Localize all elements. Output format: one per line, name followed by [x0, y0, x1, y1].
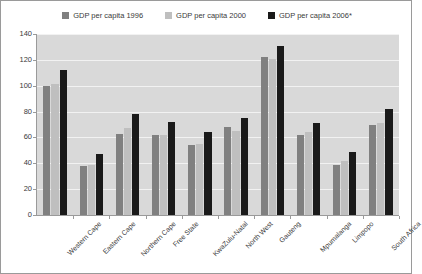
y-axis-tick-labels: 020406080100120140 — [1, 34, 32, 215]
bar-group — [224, 34, 248, 215]
x-axis-tick-label: Gauteng — [278, 220, 302, 244]
x-axis-tick-mark — [146, 216, 147, 219]
bar[interactable] — [333, 165, 340, 215]
bar-group — [369, 34, 393, 215]
x-axis-tick-mark — [363, 216, 364, 219]
x-axis-tick-mark — [290, 216, 291, 219]
bar[interactable] — [188, 145, 195, 215]
x-axis-tick-mark — [182, 216, 183, 219]
bar-group — [261, 34, 285, 215]
bar[interactable] — [377, 123, 384, 215]
bar[interactable] — [168, 122, 175, 215]
bar-group — [116, 34, 140, 215]
y-axis-tick-label: 0 — [28, 211, 32, 219]
bar[interactable] — [124, 128, 131, 215]
bar[interactable] — [152, 135, 159, 215]
bar[interactable] — [160, 135, 167, 215]
bar[interactable] — [313, 123, 320, 215]
chart-legend: GDP per capita 1996GDP per capita 2000GD… — [1, 12, 413, 20]
bar[interactable] — [241, 118, 248, 215]
bar[interactable] — [60, 70, 67, 215]
y-axis-tick-label: 80 — [24, 108, 32, 116]
bar-group — [152, 34, 176, 215]
bar-group — [333, 34, 357, 215]
y-axis-tick-label: 20 — [24, 185, 32, 193]
y-axis-tick-label: 60 — [24, 134, 32, 142]
x-axis-tick-mark — [254, 216, 255, 219]
bar-group — [80, 34, 104, 215]
legend-item[interactable]: GDP per capita 2000 — [165, 12, 246, 20]
bar[interactable] — [51, 84, 58, 215]
bar[interactable] — [369, 125, 376, 216]
y-axis-tick-label: 100 — [19, 82, 32, 90]
bar[interactable] — [224, 127, 231, 215]
bar[interactable] — [204, 132, 211, 215]
x-axis-tick-label: Northern Cape — [139, 220, 176, 257]
bar[interactable] — [80, 166, 87, 215]
x-axis-tick-label: Western Cape — [66, 220, 103, 257]
bar[interactable] — [132, 114, 139, 215]
x-axis-tick-label: South Africa — [390, 220, 422, 252]
legend-label: GDP per capita 2006* — [279, 12, 352, 20]
x-axis-tick-mark — [109, 216, 110, 219]
x-axis-tick-label: KwaZulu-Natal — [211, 220, 248, 257]
legend-item[interactable]: GDP per capita 1996 — [62, 12, 143, 20]
bar[interactable] — [297, 135, 304, 215]
bar[interactable] — [385, 109, 392, 215]
bar[interactable] — [43, 86, 50, 215]
bar[interactable] — [88, 165, 95, 215]
bar-group — [188, 34, 212, 215]
y-axis-tick-label: 140 — [19, 30, 32, 38]
bar[interactable] — [261, 57, 268, 215]
bar-group — [43, 34, 67, 215]
x-axis-tick-mark — [399, 216, 400, 219]
bar[interactable] — [269, 59, 276, 215]
legend-item[interactable]: GDP per capita 2006* — [268, 12, 352, 20]
legend-swatch-icon — [165, 12, 172, 19]
bar[interactable] — [341, 161, 348, 215]
legend-swatch-icon — [268, 12, 275, 19]
legend-label: GDP per capita 2000 — [176, 12, 246, 20]
x-axis-tick-mark — [73, 216, 74, 219]
bar[interactable] — [196, 144, 203, 215]
bar[interactable] — [96, 154, 103, 215]
bar[interactable] — [116, 134, 123, 215]
y-axis-tick-label: 120 — [19, 56, 32, 64]
legend-swatch-icon — [62, 12, 69, 19]
legend-label: GDP per capita 1996 — [73, 12, 143, 20]
x-axis-tick-mark — [218, 216, 219, 219]
x-axis-tick-label: Eastern Cape — [102, 220, 137, 255]
x-axis-tick-label: Mpumalanga — [318, 220, 352, 254]
bar-group — [297, 34, 321, 215]
bar[interactable] — [277, 46, 284, 215]
y-axis-tick-label: 40 — [24, 160, 32, 168]
x-axis-tick-label: Limpopo — [351, 220, 375, 244]
plot-area — [37, 34, 399, 215]
bar[interactable] — [305, 132, 312, 215]
bar[interactable] — [349, 152, 356, 215]
bar[interactable] — [232, 131, 239, 215]
x-axis-tick-mark — [327, 216, 328, 219]
